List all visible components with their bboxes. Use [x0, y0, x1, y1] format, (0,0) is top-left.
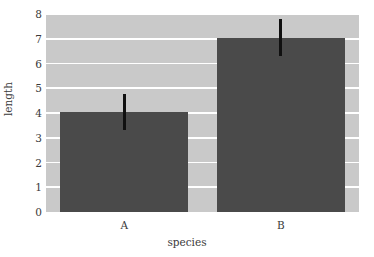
errorbar-a: [123, 94, 126, 130]
figure-canvas: 012345678 AB length species: [0, 0, 374, 257]
y-tick-label: 8: [4, 9, 42, 20]
x-tick-label: B: [251, 220, 311, 231]
y-tick-label: 3: [4, 133, 42, 144]
x-axis-title: species: [0, 236, 374, 248]
y-tick-label: 1: [4, 182, 42, 193]
plot-area: [46, 14, 359, 212]
x-tick-label: A: [94, 220, 154, 231]
y-axis-title: length: [2, 69, 14, 129]
y-tick-label: 6: [4, 58, 42, 69]
bar-b: [217, 38, 345, 212]
y-tick-label: 7: [4, 34, 42, 45]
gridline: [46, 14, 359, 15]
errorbar-b: [279, 19, 282, 56]
y-tick-label: 2: [4, 157, 42, 168]
x-axis-tick-labels: AB: [0, 220, 374, 234]
y-tick-label: 0: [4, 207, 42, 218]
